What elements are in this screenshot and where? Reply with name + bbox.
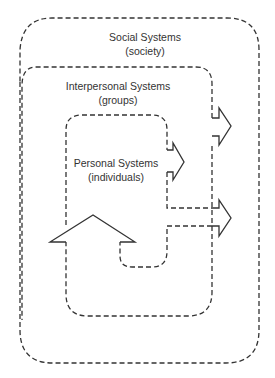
personal-systems-boundary-lower — [167, 172, 212, 208]
interpersonal-systems-label: Interpersonal Systems (groups) — [58, 79, 178, 107]
personal-systems-label: Personal Systems (individuals) — [70, 156, 162, 184]
personal-arrow-icon — [167, 143, 184, 180]
social-systems-subtitle: (society) — [95, 44, 195, 58]
personal-to-social-arrow-icon — [212, 200, 231, 236]
social-systems-title: Social Systems — [95, 30, 195, 44]
interpersonal-systems-subtitle: (groups) — [58, 93, 178, 107]
personal-to-social-channel — [120, 226, 212, 267]
upward-arrow-icon — [50, 215, 135, 242]
social-systems-label: Social Systems (society) — [95, 30, 195, 58]
personal-systems-subtitle: (individuals) — [70, 170, 162, 184]
interpersonal-arrow-icon — [212, 108, 231, 145]
interpersonal-systems-title: Interpersonal Systems — [58, 79, 178, 93]
personal-systems-title: Personal Systems — [70, 156, 162, 170]
social-systems-boundary — [20, 18, 259, 363]
